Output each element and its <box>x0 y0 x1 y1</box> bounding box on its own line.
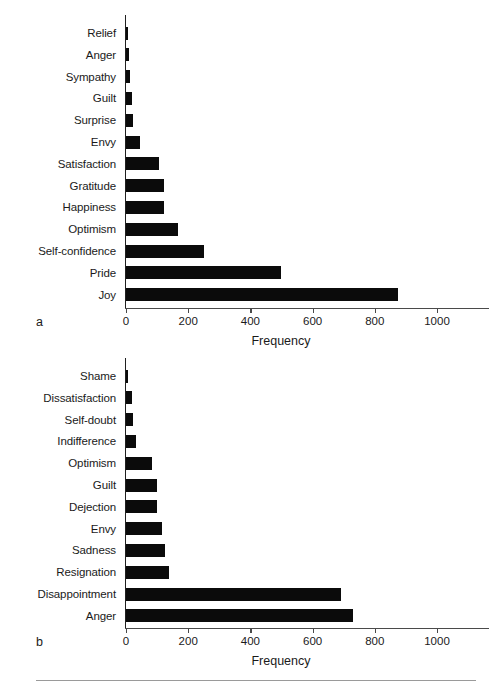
bar <box>126 457 152 470</box>
bar-row: Joy <box>0 284 476 306</box>
bar <box>126 266 281 279</box>
plot-area-b: ShameDissatisfactionSelf-doubtIndifferen… <box>0 337 476 685</box>
bar-category-label: Dissatisfaction <box>43 387 116 409</box>
bar <box>126 413 133 426</box>
bar-category-label: Optimism <box>68 452 116 474</box>
bar-row: Sympathy <box>0 66 476 88</box>
bar-category-label: Joy <box>98 284 116 306</box>
plot-area-a: ReliefAngerSympathyGuiltSurpriseEnvySati… <box>0 0 476 345</box>
panel-letter-b: b <box>36 635 43 649</box>
x-axis-tick-label: 600 <box>293 635 333 647</box>
x-axis-tick-label: 1000 <box>417 635 457 647</box>
bar <box>126 179 164 192</box>
bar-row: Envy <box>0 518 476 540</box>
x-axis-tick <box>437 628 438 633</box>
bar-row: Disappointment <box>0 583 476 605</box>
x-axis-tick-label: 800 <box>355 635 395 647</box>
bar <box>126 588 341 601</box>
x-axis-tick-label: 0 <box>106 315 146 327</box>
bar <box>126 288 398 301</box>
bar-category-label: Guilt <box>93 87 116 109</box>
x-axis-tick <box>126 628 127 633</box>
bar-row: Surprise <box>0 109 476 131</box>
bar <box>126 479 157 492</box>
x-axis-title: Frequency <box>181 654 381 668</box>
x-axis-tick <box>250 628 251 633</box>
bar-row: Indifference <box>0 430 476 452</box>
panel-letter-a: a <box>36 315 43 329</box>
bar <box>126 27 128 40</box>
bar-category-label: Surprise <box>74 109 116 131</box>
x-axis-tick <box>188 308 189 313</box>
bar <box>126 245 204 258</box>
bar <box>126 114 133 127</box>
bar-category-label: Anger <box>86 44 116 66</box>
bar-row: Self-doubt <box>0 409 476 431</box>
bar-category-label: Optimism <box>68 218 116 240</box>
bar-category-label: Indifference <box>57 430 116 452</box>
bar-row: Pride <box>0 262 476 284</box>
bar-row: Anger <box>0 605 476 627</box>
x-axis-spine <box>125 628 489 629</box>
bar-row: Happiness <box>0 196 476 218</box>
panel-a: ReliefAngerSympathyGuiltSurpriseEnvySati… <box>0 0 476 345</box>
bar <box>126 544 165 557</box>
x-axis-tick-label: 600 <box>293 315 333 327</box>
bar <box>126 157 159 170</box>
x-axis-tick-label: 400 <box>230 635 270 647</box>
bar <box>126 136 140 149</box>
x-axis-tick <box>126 308 127 313</box>
bar-category-label: Relief <box>87 22 116 44</box>
bar-row: Sadness <box>0 539 476 561</box>
x-axis-tick <box>375 628 376 633</box>
bar <box>126 70 130 83</box>
bar <box>126 566 169 579</box>
bar-category-label: Pride <box>90 262 116 284</box>
bar-row: Anger <box>0 44 476 66</box>
bar-category-label: Guilt <box>93 474 116 496</box>
bar <box>126 92 132 105</box>
bar <box>126 201 164 214</box>
x-axis-tick <box>313 308 314 313</box>
bar-row: Satisfaction <box>0 153 476 175</box>
bar <box>126 435 136 448</box>
x-axis-tick <box>437 308 438 313</box>
bar-row: Shame <box>0 365 476 387</box>
bar-category-label: Resignation <box>56 561 116 583</box>
x-axis-tick-label: 200 <box>168 315 208 327</box>
x-axis-tick-label: 400 <box>230 315 270 327</box>
bar-category-label: Envy <box>91 518 116 540</box>
bar-row: Gratitude <box>0 175 476 197</box>
x-axis-tick <box>313 628 314 633</box>
bar-category-label: Happiness <box>63 196 116 218</box>
bar-category-label: Shame <box>80 365 116 387</box>
bar <box>126 370 128 383</box>
bar <box>126 609 353 622</box>
bar-category-label: Sadness <box>72 539 116 561</box>
x-axis-tick <box>188 628 189 633</box>
bar-row: Optimism <box>0 218 476 240</box>
bar <box>126 391 132 404</box>
bar <box>126 500 157 513</box>
bar-category-label: Dejection <box>69 496 116 518</box>
x-axis-tick-label: 0 <box>106 635 146 647</box>
bar-row: Resignation <box>0 561 476 583</box>
panel-b: ShameDissatisfactionSelf-doubtIndifferen… <box>0 337 476 685</box>
x-axis-spine <box>125 308 489 309</box>
x-axis-tick <box>375 308 376 313</box>
bar-category-label: Envy <box>91 131 116 153</box>
bar-row: Self-confidence <box>0 240 476 262</box>
bar-category-label: Self-confidence <box>38 240 116 262</box>
x-axis-tick-label: 1000 <box>417 315 457 327</box>
bar-category-label: Self-doubt <box>65 409 116 431</box>
x-axis-tick-label: 200 <box>168 635 208 647</box>
bar-row: Envy <box>0 131 476 153</box>
bar <box>126 223 178 236</box>
bar-category-label: Gratitude <box>70 175 116 197</box>
bar-category-label: Sympathy <box>66 66 116 88</box>
bar-row: Guilt <box>0 474 476 496</box>
bar-row: Relief <box>0 22 476 44</box>
bar <box>126 522 162 535</box>
bar-row: Optimism <box>0 452 476 474</box>
bar-category-label: Disappointment <box>37 583 116 605</box>
